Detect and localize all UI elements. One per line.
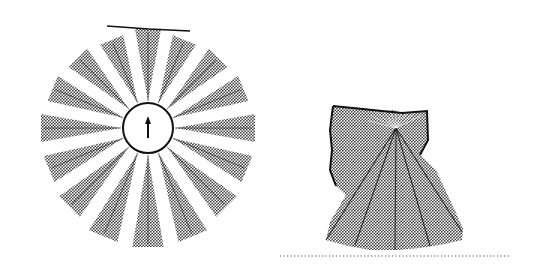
map-panel xyxy=(280,106,510,256)
sonar-ring-panel xyxy=(41,26,255,247)
sonar-beam xyxy=(100,35,138,103)
sonar-diagram xyxy=(0,0,536,274)
sonar-beam xyxy=(158,35,196,103)
